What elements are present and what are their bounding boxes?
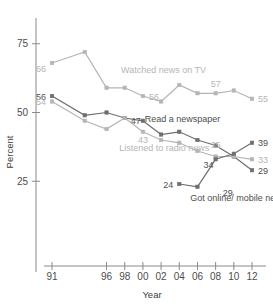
data-point-label: 29: [223, 188, 233, 198]
series-annotation-label: Read a newspaper: [145, 114, 221, 124]
data-point-marker: [50, 61, 53, 64]
data-point-marker: [250, 158, 253, 161]
data-point-label: 54: [36, 97, 46, 107]
x-axis-tick-label: 00: [137, 271, 149, 282]
data-point-label: 66: [36, 64, 46, 74]
data-point-marker: [196, 185, 199, 188]
data-point-marker: [178, 182, 181, 185]
data-point-marker: [214, 92, 217, 95]
data-point-marker: [105, 86, 108, 89]
data-point-marker: [83, 114, 86, 117]
data-point-marker: [196, 138, 199, 141]
data-point-marker: [50, 94, 53, 97]
data-point-marker: [232, 152, 235, 155]
data-point-marker: [214, 158, 217, 161]
data-point-marker: [83, 119, 86, 122]
data-point-label: 35: [211, 140, 221, 150]
data-point-marker: [159, 100, 162, 103]
x-axis-tick-label: 91: [46, 271, 58, 282]
data-point-marker: [50, 100, 53, 103]
data-point-marker: [105, 127, 108, 130]
data-point-marker: [141, 94, 144, 97]
data-point-marker: [250, 97, 253, 100]
data-point-marker: [105, 111, 108, 114]
line-chart: 255075Percent91969800020406081012YearWat…: [0, 0, 273, 306]
data-point-marker: [159, 133, 162, 136]
data-point-marker: [178, 130, 181, 133]
data-point-marker: [232, 89, 235, 92]
x-axis-tick-label: 04: [174, 271, 186, 282]
x-axis-tick-label: 10: [228, 271, 240, 282]
data-point-label: 39: [258, 138, 268, 148]
x-axis-tick-label: 02: [156, 271, 168, 282]
data-point-marker: [250, 169, 253, 172]
y-axis-tick-label: 75: [17, 38, 29, 49]
data-point-marker: [141, 130, 144, 133]
data-point-marker: [83, 50, 86, 53]
y-axis-title: Percent: [4, 135, 15, 168]
x-axis-tick-label: 98: [119, 271, 131, 282]
y-axis-tick-label: 25: [17, 176, 29, 187]
x-axis-tick-label: 96: [101, 271, 113, 282]
data-point-label: 55: [258, 94, 268, 104]
data-point-label: 29: [258, 166, 268, 176]
data-point-label: 34: [204, 160, 214, 170]
data-point-label: 33: [258, 155, 268, 165]
data-point-marker: [250, 141, 253, 144]
data-point-marker: [159, 138, 162, 141]
data-point-label: 43: [138, 135, 148, 145]
data-point-marker: [196, 92, 199, 95]
x-axis-tick-label: 08: [210, 271, 222, 282]
x-axis-title: Year: [142, 289, 161, 300]
chart-canvas: 255075Percent91969800020406081012YearWat…: [0, 0, 273, 306]
series-annotation-label: Listened to radio news: [119, 143, 210, 153]
series-line: [52, 96, 252, 170]
data-point-label: 47: [131, 116, 141, 126]
data-point-label: 24: [163, 180, 173, 190]
x-axis-tick-label: 12: [246, 271, 258, 282]
data-point-label: 57: [211, 79, 221, 89]
data-point-marker: [178, 83, 181, 86]
series-annotation-label: Watched news on TV: [121, 65, 206, 75]
data-point-label: 56: [149, 92, 159, 102]
x-axis-tick-label: 06: [192, 271, 204, 282]
data-point-marker: [123, 116, 126, 119]
data-point-marker: [123, 86, 126, 89]
y-axis-tick-label: 50: [17, 107, 29, 118]
